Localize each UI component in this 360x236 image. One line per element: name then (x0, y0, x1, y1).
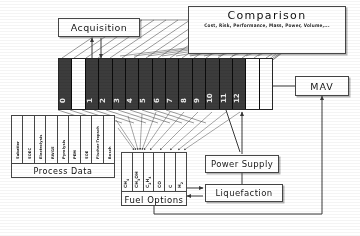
arrow-acquisition-block (92, 38, 101, 58)
arrow-block-power-supply (226, 110, 242, 154)
process-matrix-cell[interactable]: 0 (59, 59, 72, 109)
comparison-box[interactable]: Comparison Cost, Risk, Performance, Mass… (188, 6, 346, 54)
process-data-cell-label: SOE (85, 151, 89, 159)
process-data-cell-label: PEM (73, 150, 77, 159)
process-matrix-cell-number: 4 (126, 98, 134, 103)
bottom-return-bus (154, 206, 322, 214)
diagram-canvas: Acquisition Comparison Cost, Risk, Perfo… (0, 0, 360, 236)
process-matrix-cell[interactable]: 3 (113, 59, 126, 109)
process-data-cell-label: Pyrolysis (62, 140, 66, 159)
process-matrix-cell[interactable]: 5 (139, 59, 152, 109)
process-data-cell[interactable]: PEM (69, 116, 80, 163)
process-matrix-cell-number: 2 (99, 98, 107, 103)
process-matrix-cell[interactable]: 6 (153, 59, 166, 109)
fuel-option-label: C (168, 185, 173, 188)
process-data-cell-label: SOEC (28, 148, 32, 159)
process-matrix-cell[interactable]: 10 (206, 59, 219, 109)
process-matrix-cell[interactable]: 8 (179, 59, 192, 109)
process-matrix-cell[interactable]: 4 (126, 59, 139, 109)
process-data-cell-label: Sabatier (16, 141, 20, 159)
fuel-options-panel[interactable]: CH4CH3OHC2H4COCH2 Fuel Options (121, 152, 187, 206)
power-supply-label: Power Supply (211, 159, 273, 169)
process-matrix-cell-number: 10 (206, 93, 214, 103)
fuel-options-footer-label: Fuel Options (122, 191, 186, 207)
process-matrix-cell-number: 1 (86, 98, 94, 103)
process-matrix-cell-number: 12 (233, 93, 241, 103)
process-data-footer-label: Process Data (12, 163, 114, 179)
process-data-cell[interactable]: RWGS (46, 116, 57, 163)
process-matrix-cell-number: 3 (113, 98, 121, 103)
process-matrix-cell-number: 9 (193, 98, 201, 103)
process-matrix-cell-number: 8 (180, 98, 188, 103)
acquisition-box[interactable]: Acquisition (58, 18, 140, 37)
liquefaction-label: Liquefaction (215, 188, 272, 198)
fuel-option-label: CO (157, 181, 162, 188)
fuel-option-cell[interactable]: C (165, 153, 176, 191)
process-matrix-cell[interactable]: 2 (99, 59, 112, 109)
process-matrix-block[interactable]: 0123456789101112 (58, 58, 273, 110)
process-data-cell[interactable]: Fischer-Tropsch (92, 116, 103, 163)
comparison-title: Comparison (189, 9, 345, 22)
process-matrix-cell[interactable]: 9 (193, 59, 206, 109)
process-data-cell[interactable]: SOEC (23, 116, 34, 163)
process-matrix-cell[interactable]: 12 (233, 59, 246, 109)
fuel-option-cell[interactable]: CH3OH (133, 153, 144, 191)
fuel-option-cell[interactable]: C2H4 (144, 153, 155, 191)
process-data-cell-label: Electrolysis (39, 135, 43, 160)
process-matrix-cell[interactable] (260, 59, 272, 109)
fuel-options-cells: CH4CH3OHC2H4COCH2 (122, 153, 186, 191)
arrow-fuel-liquefaction (187, 188, 203, 196)
fuel-option-label: CH3OH (134, 171, 141, 188)
process-data-cell[interactable]: SOE (81, 116, 92, 163)
process-data-cell-label: Fischer-Tropsch (96, 126, 100, 159)
process-data-cell-label: Bosch (108, 146, 112, 159)
process-matrix-cell-number: 7 (166, 98, 174, 103)
process-data-panel[interactable]: SabatierSOECElectrolysisRWGSPyrolysisPEM… (11, 115, 115, 178)
process-matrix-cell-number: 0 (59, 98, 67, 103)
process-data-cell[interactable]: Electrolysis (35, 116, 46, 163)
process-data-cell[interactable]: Pyrolysis (58, 116, 69, 163)
fuel-option-label: CH4 (123, 179, 130, 188)
process-data-cell[interactable]: Sabatier (12, 116, 23, 163)
process-matrix-face: 0123456789101112 (58, 58, 273, 110)
fuel-option-label: H2 (177, 182, 184, 188)
power-supply-box[interactable]: Power Supply (205, 155, 279, 173)
process-data-cells: SabatierSOECElectrolysisRWGSPyrolysisPEM… (12, 116, 114, 163)
process-data-cell-label: RWGS (51, 146, 55, 159)
process-matrix-cell-number: 6 (153, 98, 161, 103)
process-matrix-cell[interactable]: 1 (86, 59, 99, 109)
comparison-criteria: Cost, Risk, Performance, Mass, Power, Vo… (189, 23, 345, 29)
process-matrix-cell[interactable] (72, 59, 85, 109)
process-matrix-cell[interactable] (246, 59, 259, 109)
process-matrix-cell-number: 11 (220, 93, 228, 103)
fuel-option-cell[interactable]: CO (154, 153, 165, 191)
mav-box[interactable]: MAV (295, 76, 349, 96)
liquefaction-box[interactable]: Liquefaction (205, 184, 283, 202)
fuel-option-cell[interactable]: H2 (176, 153, 186, 191)
process-matrix-cell[interactable]: 11 (220, 59, 233, 109)
mav-label: MAV (310, 81, 334, 92)
acquisition-label: Acquisition (71, 22, 127, 33)
fuel-option-label: C2H4 (145, 177, 152, 188)
process-matrix-cell-number: 5 (139, 98, 147, 103)
process-data-cell[interactable]: Bosch (104, 116, 114, 163)
process-matrix-cell[interactable]: 7 (166, 59, 179, 109)
fuel-option-cell[interactable]: CH4 (122, 153, 133, 191)
